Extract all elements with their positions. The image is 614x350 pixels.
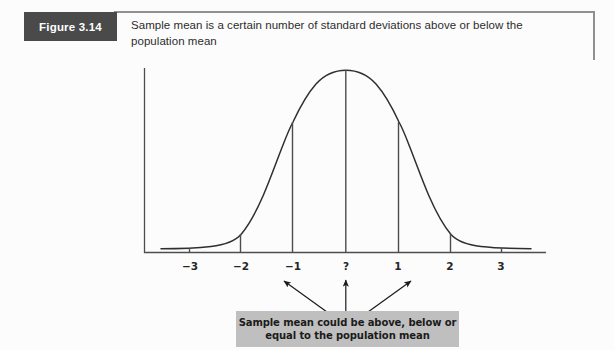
header-right-rule — [593, 11, 595, 60]
figure-caption: Sample mean is a certain number of stand… — [131, 18, 571, 49]
x-tick-label-minus-1: −1 — [285, 260, 301, 272]
x-tick-label-plus-1: 1 — [394, 260, 401, 272]
figure-number-label: Figure 3.14 — [39, 21, 102, 33]
bell-curve — [161, 70, 531, 249]
x-tick-label-plus-2: 2 — [446, 260, 453, 272]
figure-page: Figure 3.14 Sample mean is a certain num… — [0, 0, 614, 350]
normal-distribution-chart: −3 −2 −1 ? 1 2 3 — [0, 0, 614, 350]
callout-box: Sample mean could be above, below or equ… — [236, 311, 459, 347]
callout-arrow-left — [284, 281, 327, 312]
header-top-rule — [114, 11, 595, 13]
figure-number-badge: Figure 3.14 — [25, 13, 116, 40]
x-tick-label-minus-2: −2 — [233, 260, 249, 272]
x-tick-label-minus-3: −3 — [182, 260, 198, 272]
callout-text: Sample mean could be above, below or equ… — [239, 316, 457, 343]
x-tick-label-plus-3: 3 — [497, 260, 504, 272]
callout-arrow-right — [368, 281, 411, 312]
x-tick-label-center: ? — [343, 260, 349, 272]
